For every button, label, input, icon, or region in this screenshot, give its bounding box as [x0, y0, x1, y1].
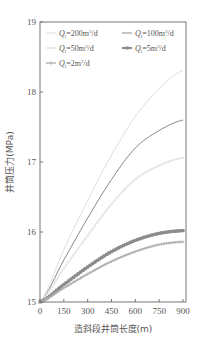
- marker-dot: [118, 195, 120, 197]
- legend-label: Ql=5m3/d: [135, 44, 166, 54]
- marker-dot: [87, 234, 89, 236]
- marker-dot: [58, 275, 60, 277]
- marker-dot: [98, 218, 100, 220]
- y-axis-label: 井筒压力(MPa): [4, 131, 15, 192]
- legend-label: Ql=100m3/d: [135, 29, 174, 39]
- y-tick-label: 19: [27, 17, 37, 27]
- marker-square: [181, 229, 184, 232]
- x-tick-label: 150: [57, 306, 71, 316]
- marker-dot: [96, 221, 98, 223]
- y-tick-label: 15: [27, 297, 37, 307]
- x-tick-label: 900: [176, 306, 190, 316]
- marker-dot: [141, 173, 143, 175]
- series-line: [40, 70, 183, 302]
- x-tick-label: 300: [81, 306, 95, 316]
- x-tick-label: 450: [105, 306, 119, 316]
- marker-dot: [75, 251, 77, 253]
- marker-dot: [129, 183, 131, 185]
- marker-dot: [70, 257, 72, 259]
- y-tick-label: 16: [27, 227, 37, 237]
- marker-dot: [153, 167, 155, 169]
- marker-dot: [51, 286, 53, 288]
- marker-dot: [103, 212, 105, 214]
- marker-dot: [151, 168, 153, 170]
- marker-dot: [46, 293, 48, 295]
- marker-dot: [108, 206, 110, 208]
- marker-dot: [168, 160, 170, 162]
- y-tick-label: 17: [27, 157, 37, 167]
- marker-dot: [177, 158, 179, 160]
- marker-dot: [79, 244, 81, 246]
- marker-dot: [53, 282, 55, 284]
- marker-dot: [160, 163, 162, 165]
- marker-dot: [132, 180, 134, 182]
- marker-dot: [182, 157, 184, 159]
- legend-item: Ql=200m3/d: [46, 29, 98, 39]
- marker-dot: [146, 170, 148, 172]
- marker-dot: [180, 157, 182, 159]
- marker-dot: [149, 169, 151, 171]
- marker-dot: [120, 192, 122, 194]
- legend-marker: [126, 46, 129, 49]
- marker-dot: [101, 215, 103, 217]
- marker-dot: [175, 158, 177, 160]
- marker-dot: [127, 185, 129, 187]
- marker-dot: [56, 278, 58, 280]
- marker-dot: [170, 160, 172, 162]
- series-line: [40, 231, 183, 302]
- y-axis: 1516171819: [27, 17, 43, 307]
- pressure-chart: 1516171819 0150300450600750900 造斜段井筒长度(m…: [0, 0, 203, 346]
- y-tick-label: 18: [27, 87, 37, 97]
- marker-dot: [165, 161, 167, 163]
- marker-dot: [77, 247, 79, 249]
- marker-dot: [48, 290, 50, 292]
- marker-dot: [113, 200, 115, 202]
- marker-dot: [89, 231, 91, 233]
- marker-dot: [139, 175, 141, 177]
- legend-label: Ql=50m3/d: [59, 44, 94, 54]
- marker-dot: [115, 197, 117, 199]
- legend-label: Ql=200m3/d: [59, 29, 98, 39]
- legend-label: Ql=2m3/d: [59, 59, 90, 69]
- series-line: [40, 120, 183, 302]
- marker-dot: [68, 261, 70, 263]
- marker-dot: [122, 190, 124, 192]
- marker-dot: [65, 264, 67, 266]
- legend-item: Ql=100m3/d: [122, 29, 174, 39]
- marker-dot: [134, 178, 136, 180]
- x-tick-label: 0: [38, 306, 43, 316]
- marker-dot: [125, 187, 127, 189]
- marker-dot: [156, 165, 158, 167]
- marker-dot: [60, 271, 62, 273]
- x-axis-label: 造斜段井筒长度(m): [74, 323, 153, 334]
- series-0: [40, 70, 183, 302]
- marker-dot: [72, 254, 74, 256]
- marker-dot: [144, 172, 146, 174]
- marker-dot: [106, 209, 108, 211]
- marker-dot: [110, 203, 112, 205]
- x-tick-label: 750: [152, 306, 166, 316]
- marker-dot: [163, 162, 165, 164]
- plot-series: [38, 70, 184, 303]
- marker-dot: [84, 238, 86, 240]
- marker-dot: [137, 177, 139, 179]
- x-tick-label: 600: [129, 306, 143, 316]
- marker-dot: [63, 267, 65, 269]
- marker-dot: [94, 225, 96, 227]
- marker-dot: [91, 228, 93, 230]
- legend-item: Ql=2m3/d: [46, 59, 90, 69]
- legend: Ql=200m3/dQl=100m3/dQl=50m3/dQl=5m3/dQl=…: [46, 29, 174, 69]
- marker-dot: [82, 241, 84, 243]
- legend-item: Ql=50m3/d: [46, 44, 94, 54]
- marker-dot: [158, 164, 160, 166]
- marker-dot: [172, 159, 174, 161]
- series-1: [40, 120, 183, 302]
- legend-item: Ql=5m3/d: [122, 44, 166, 54]
